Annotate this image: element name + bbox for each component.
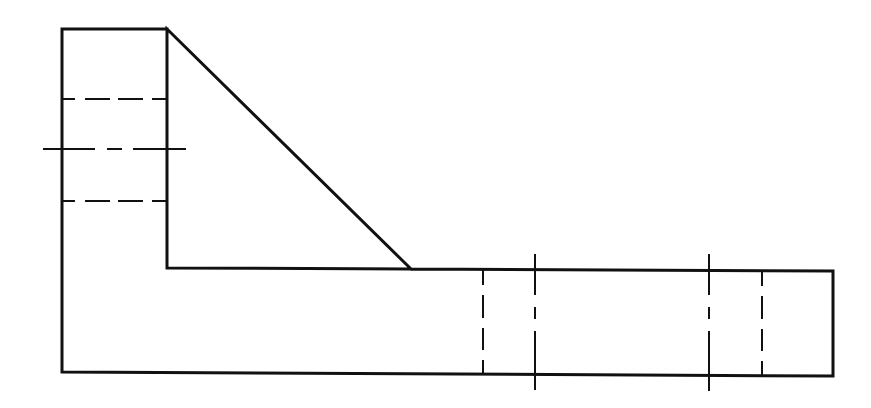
drawing-svg <box>0 0 871 408</box>
technical-drawing <box>0 0 871 408</box>
outer-outline <box>62 29 833 376</box>
